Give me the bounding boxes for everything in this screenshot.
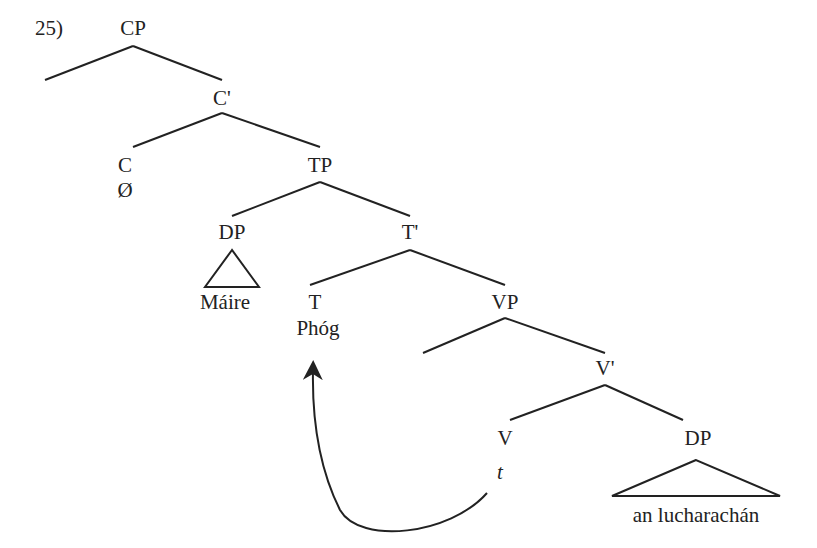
node-vp: VP: [492, 292, 519, 313]
node-v: V: [497, 428, 512, 449]
node-v-bar: V': [596, 358, 615, 379]
node-cp: CP: [120, 18, 146, 39]
null-complementizer: Ø: [117, 180, 132, 201]
verb-word: Phóg: [296, 318, 339, 339]
node-tp: TP: [308, 155, 333, 176]
node-c: C: [118, 155, 132, 176]
node-dp-object: DP: [685, 428, 712, 449]
verb-trace: t: [497, 462, 503, 483]
subject-word: Máire: [200, 292, 250, 313]
node-t-bar: T': [402, 222, 419, 243]
example-number: 25): [35, 18, 63, 39]
node-dp-subject: DP: [219, 222, 246, 243]
tree-lines: [0, 0, 817, 548]
node-t: T: [309, 292, 322, 313]
node-c-bar: C': [213, 88, 231, 109]
object-words: an lucharachán: [633, 505, 760, 526]
